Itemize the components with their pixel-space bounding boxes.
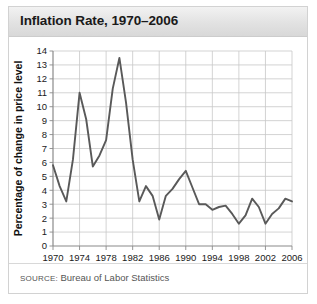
x-axis-tick-label: 2002 — [255, 252, 276, 262]
y-axis-tick-label: 10 — [36, 101, 47, 112]
y-axis-tick-label: 12 — [36, 73, 47, 84]
y-axis-tick-label: 8 — [42, 129, 47, 140]
x-axis-tick-label: 2006 — [281, 252, 302, 262]
x-axis-tick-label: 1990 — [175, 252, 196, 262]
figure-container: Inflation Rate, 1970–2006 01234567891011… — [0, 0, 317, 304]
y-axis-tick-label: 0 — [42, 240, 47, 251]
source-bar: SOURCE: Bureau of Labor Statistics — [9, 263, 307, 293]
source-note: SOURCE: Bureau of Labor Statistics — [20, 272, 169, 283]
y-axis-title: Percentage of change in price level — [12, 61, 24, 237]
y-axis-tick-label: 6 — [42, 157, 47, 168]
x-axis-tick-label: 1978 — [96, 252, 117, 262]
plot-area: 0123456789101112131419701974197819821986… — [9, 37, 307, 262]
y-axis-tick-label: 11 — [37, 87, 47, 98]
y-axis-tick-label: 1 — [42, 226, 47, 237]
y-axis-tick-label: 3 — [42, 199, 47, 210]
y-axis-tick-label: 13 — [36, 59, 47, 70]
y-axis-tick-label: 14 — [36, 45, 47, 56]
x-axis-tick-label: 1998 — [228, 252, 249, 262]
y-axis-tick-label: 2 — [42, 213, 47, 224]
y-axis-tick-label: 7 — [42, 143, 47, 154]
page-title: Inflation Rate, 1970–2006 — [20, 13, 178, 28]
x-axis-tick-label: 1970 — [42, 252, 63, 262]
chart-title-bar: Inflation Rate, 1970–2006 — [9, 7, 307, 37]
x-axis-tick-label: 1994 — [202, 252, 223, 262]
y-axis-tick-label: 4 — [42, 185, 47, 196]
data-series-line — [53, 58, 292, 224]
chart-panel: Inflation Rate, 1970–2006 01234567891011… — [8, 6, 308, 294]
source-label: SOURCE: — [20, 274, 58, 283]
x-axis-tick-label: 1986 — [149, 252, 170, 262]
inflation-line-chart: 0123456789101112131419701974197819821986… — [9, 37, 307, 262]
source-value: Bureau of Labor Statistics — [61, 272, 170, 283]
x-axis-tick-label: 1982 — [122, 252, 143, 262]
y-axis-tick-label: 5 — [42, 171, 47, 182]
y-axis-tick-label: 9 — [42, 115, 47, 126]
x-axis-tick-label: 1974 — [69, 252, 90, 262]
